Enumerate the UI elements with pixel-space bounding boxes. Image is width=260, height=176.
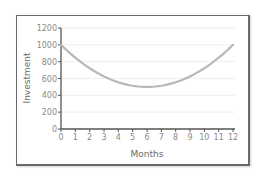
x-tick-label: 2 (87, 133, 92, 142)
x-tick-label: 0 (58, 133, 63, 142)
y-tick-label: 200 (42, 108, 57, 117)
y-tick-label: 1200 (37, 24, 57, 33)
y-tick-label: 600 (42, 75, 57, 84)
y-axis-title: Investment (22, 52, 32, 103)
x-tick-label: 8 (173, 133, 178, 142)
x-tick-label: 9 (187, 133, 192, 142)
gridlines (61, 28, 235, 112)
y-axis-ticks: 020040060080010001200 (37, 24, 61, 134)
x-axis-title: Months (131, 149, 164, 159)
x-axis-ticks: 0123456789101112 (58, 129, 238, 142)
x-tick-label: 5 (130, 133, 135, 142)
x-tick-label: 7 (159, 133, 164, 142)
y-tick-label: 1000 (37, 41, 57, 50)
y-tick-label: 0 (52, 125, 57, 134)
x-tick-label: 6 (144, 133, 149, 142)
y-tick-label: 800 (42, 58, 57, 67)
line-chart: 020040060080010001200 0123456789101112 I… (0, 0, 260, 176)
x-tick-label: 10 (199, 133, 209, 142)
x-tick-label: 11 (214, 133, 224, 142)
x-tick-label: 1 (73, 133, 78, 142)
y-tick-label: 400 (42, 91, 57, 100)
x-tick-label: 3 (101, 133, 106, 142)
investment-curve (61, 45, 233, 87)
x-tick-label: 4 (116, 133, 121, 142)
x-tick-label: 12 (228, 133, 238, 142)
